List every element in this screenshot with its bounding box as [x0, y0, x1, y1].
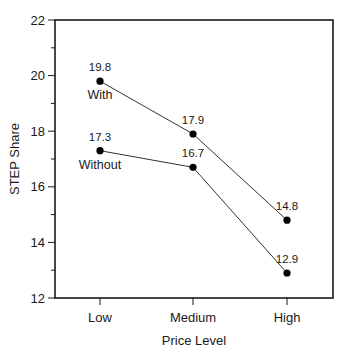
y-tick-label: 14 [31, 235, 45, 250]
y-tick-label: 16 [31, 179, 45, 194]
data-value-label: 12.9 [276, 253, 298, 265]
y-tick-label: 12 [31, 291, 45, 306]
line-chart: 121416182022 LowMediumHigh 19.817.914.8W… [0, 0, 348, 356]
data-point-marker [283, 217, 290, 224]
x-tick-label: High [274, 310, 301, 325]
data-point-marker [189, 164, 196, 171]
data-point-marker [96, 78, 103, 85]
data-point-marker [96, 147, 103, 154]
series-group: 19.817.914.8With17.316.712.9Without [79, 61, 298, 276]
data-value-label: 14.8 [276, 200, 298, 212]
data-value-label: 16.7 [182, 147, 204, 159]
data-value-label: 17.9 [182, 114, 204, 126]
data-value-label: 17.3 [89, 131, 111, 143]
series-name-label: Without [79, 158, 122, 172]
y-axis-label: STEP Share [7, 123, 22, 195]
y-tick-label: 22 [31, 13, 45, 28]
x-axis: LowMediumHigh [88, 298, 300, 325]
data-point-marker [189, 130, 196, 137]
series-with: 19.817.914.8With [88, 61, 299, 224]
y-axis: 121416182022 [31, 13, 55, 306]
data-value-label: 19.8 [89, 61, 111, 73]
data-point-marker [283, 269, 290, 276]
x-tick-label: Low [88, 310, 112, 325]
y-tick-label: 18 [31, 124, 45, 139]
series-without: 17.316.712.9Without [79, 131, 298, 277]
series-name-label: With [88, 88, 113, 102]
x-tick-label: Medium [170, 310, 216, 325]
y-tick-label: 20 [31, 68, 45, 83]
x-axis-label: Price Level [162, 333, 226, 348]
